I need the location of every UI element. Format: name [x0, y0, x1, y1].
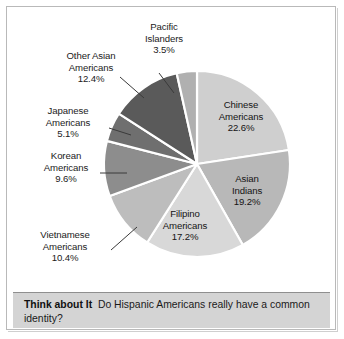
- pie-label-name-line1: Asian: [216, 173, 278, 185]
- pie-label-name-line1: Japanese: [31, 105, 105, 117]
- pie-label-other-asian-americans: Other Asian Americans 12.4%: [53, 50, 129, 85]
- pie-label-name-line2: Americans: [23, 241, 107, 253]
- pie-label-name-line1: Vietnamese: [23, 229, 107, 241]
- pie-label-korean-americans: Korean Americans 9.6%: [29, 150, 103, 185]
- pie-label-name-line2: Americans: [147, 220, 223, 232]
- pie-label-japanese-americans: Japanese Americans 5.1%: [31, 105, 105, 140]
- pie-label-pacific-islanders: Pacific Islanders 3.5%: [133, 21, 195, 56]
- pie-label-value: 9.6%: [29, 173, 103, 185]
- pie-label-name-line1: Filipino: [147, 208, 223, 220]
- think-about-it-box: Think about It Do Hispanic Americans rea…: [13, 292, 330, 328]
- pie-label-name-line1: Chinese: [203, 99, 279, 111]
- pie-label-value: 3.5%: [133, 44, 195, 56]
- pie-label-name-line2: Indians: [216, 185, 278, 197]
- pie-label-value: 12.4%: [53, 73, 129, 85]
- pie-chart: Pacific Islanders 3.5% Other Asian Ameri…: [7, 7, 335, 287]
- figure-panel: Pacific Islanders 3.5% Other Asian Ameri…: [0, 0, 344, 339]
- caption-text: Think about It Do Hispanic Americans rea…: [24, 298, 322, 325]
- pie-label-value: 19.2%: [216, 196, 278, 208]
- pie-label-name-line2: Americans: [203, 111, 279, 123]
- pie-label-name-line2: Americans: [53, 62, 129, 74]
- pie-label-value: 10.4%: [23, 252, 107, 264]
- leader-line-vietnamese-americans: [111, 227, 137, 250]
- pie-label-asian-indians: Asian Indians 19.2%: [216, 173, 278, 208]
- pie-label-name-line2: Americans: [31, 117, 105, 129]
- pie-label-name-line1: Other Asian: [53, 50, 129, 62]
- pie-label-vietnamese-americans: Vietnamese Americans 10.4%: [23, 229, 107, 264]
- pie-label-value: 22.6%: [203, 122, 279, 134]
- caption-lead-label: Think about It: [24, 299, 92, 310]
- pie-label-chinese-americans: Chinese Americans 22.6%: [203, 99, 279, 134]
- pie-label-name-line2: Americans: [29, 162, 103, 174]
- pie-label-filipino-americans: Filipino Americans 17.2%: [147, 208, 223, 243]
- pie-label-name-line1: Pacific: [133, 21, 195, 33]
- pie-label-name-line2: Islanders: [133, 33, 195, 45]
- pie-label-value: 17.2%: [147, 231, 223, 243]
- pie-label-name-line1: Korean: [29, 150, 103, 162]
- pie-label-value: 5.1%: [31, 128, 105, 140]
